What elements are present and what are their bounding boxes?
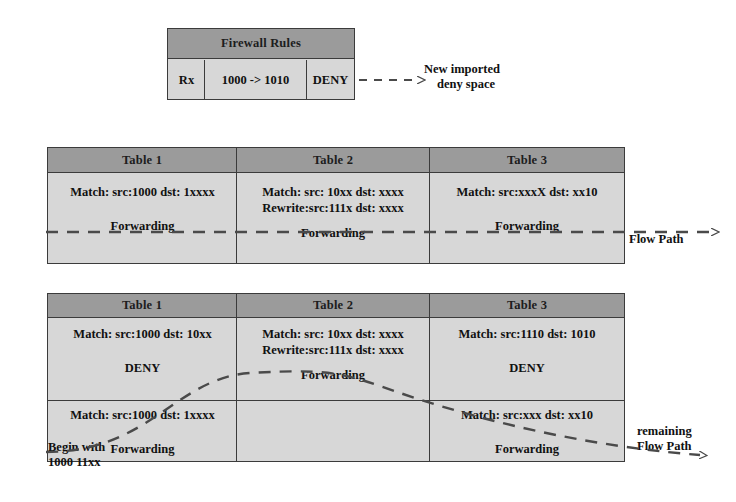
- group-b-row2-cell-table3: Match: src:xxx dst: xx10 Forwarding: [431, 407, 623, 457]
- firewall-rules-table: Firewall Rules Rx 1000 -> 1010 DENY: [167, 28, 355, 100]
- group-a-cell-table1: Match: src:1000 dst: 1xxxx Forwarding: [50, 184, 235, 234]
- group-b-r2c3-match: Match: src:xxx dst: xx10: [461, 407, 593, 423]
- group-b-r1c3-match: Match: src:1110 dst: 1010: [459, 326, 596, 342]
- group-b-r1c3-verdict: DENY: [509, 360, 544, 376]
- begin-with-annotation: Begin with 1000 11xx: [48, 440, 105, 470]
- group-b-r2c3-verdict: Forwarding: [495, 441, 559, 457]
- firewall-rules-header: Firewall Rules: [168, 29, 354, 59]
- begin-with-line2: 1000 11xx: [48, 455, 100, 469]
- group-b-r1c2-rewrite: Rewrite:src:111x dst: xxxx: [262, 342, 403, 358]
- flow-tables-group-after-deny: Table 1 Table 2 Table 3 Match: src:1000 …: [47, 293, 625, 462]
- group-b-header-table3: Table 3: [430, 294, 624, 318]
- remaining-flow-path-line1: remaining: [637, 424, 692, 438]
- remaining-flow-path-label: remaining Flow Path: [637, 424, 692, 454]
- group-a-cell2-rewrite: Rewrite:src:111x dst: xxxx: [262, 200, 403, 216]
- group-b-r1c1-match: Match: src:1000 dst: 10xx: [73, 326, 211, 342]
- group-a-cell1-match: Match: src:1000 dst: 1xxxx: [70, 184, 215, 200]
- group-a-cell3-forwarding: Forwarding: [495, 218, 559, 234]
- flow-path-label-initial: Flow Path: [629, 232, 684, 247]
- group-b-header-table2: Table 2: [237, 294, 429, 318]
- group-a-cell-table3: Match: src:xxxX dst: xx10 Forwarding: [431, 184, 623, 234]
- group-b-row-divider: [48, 400, 624, 401]
- group-a-column-divider-2: [429, 148, 430, 263]
- group-a-cell1-forwarding: Forwarding: [111, 218, 175, 234]
- group-b-r1c2-verdict: Forwarding: [301, 367, 365, 383]
- group-b-r1c1-verdict: DENY: [125, 360, 160, 376]
- firewall-direction-cell: Rx: [169, 60, 204, 100]
- group-b-r1c2-match: Match: src: 10xx dst: xxxx: [262, 326, 403, 342]
- group-b-column-divider-1: [236, 294, 237, 461]
- group-b-column-divider-2: [429, 294, 430, 461]
- group-a-cell2-forwarding: Forwarding: [301, 225, 365, 241]
- group-a-header-table1: Table 1: [48, 148, 236, 173]
- group-a-cell-table2: Match: src: 10xx dst: xxxx Rewrite:src:1…: [238, 184, 428, 241]
- group-b-r2c1-match: Match: src:1000 dst: 1xxxx: [70, 407, 215, 423]
- group-a-cell2-match: Match: src: 10xx dst: xxxx: [262, 184, 403, 200]
- group-b-row1-cell-table1: Match: src:1000 dst: 10xx DENY: [50, 326, 235, 376]
- begin-with-line1: Begin with: [48, 440, 105, 454]
- group-a-header-table3: Table 3: [430, 148, 624, 173]
- group-a-header-table2: Table 2: [237, 148, 429, 173]
- group-b-row1-cell-table3: Match: src:1110 dst: 1010 DENY: [431, 326, 623, 376]
- new-imported-deny-space-label: New imported deny space: [424, 62, 500, 92]
- firewall-rule-cell: 1000 -> 1010: [205, 60, 306, 100]
- deny-space-label-line1: New imported: [424, 62, 500, 76]
- remaining-flow-path-line2: Flow Path: [637, 439, 692, 453]
- group-b-r2c1-verdict: Forwarding: [111, 441, 175, 457]
- group-b-header-table1: Table 1: [48, 294, 236, 318]
- group-b-row1-cell-table2: Match: src: 10xx dst: xxxx Rewrite:src:1…: [238, 326, 428, 383]
- deny-space-label-line2: deny space: [437, 77, 495, 92]
- group-a-column-divider-1: [236, 148, 237, 263]
- group-a-cell3-match: Match: src:xxxX dst: xx10: [456, 184, 597, 200]
- firewall-action-cell: DENY: [307, 60, 354, 100]
- diagram-canvas: Firewall Rules Rx 1000 -> 1010 DENY New …: [0, 0, 736, 502]
- flow-tables-group-initial: Table 1 Table 2 Table 3 Match: src:1000 …: [47, 147, 625, 264]
